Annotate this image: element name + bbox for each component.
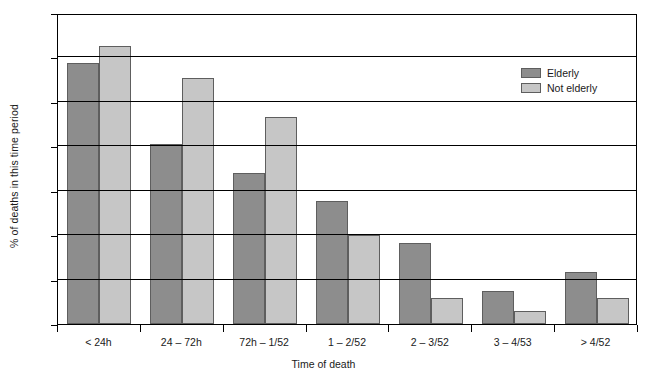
chart-legend: Elderly Not elderly [521,67,597,97]
y-tick-mark [51,103,57,104]
x-axis-title: Time of death [0,358,647,370]
x-tick-mark [471,325,472,332]
x-tick-label: > 4/52 [536,336,647,348]
x-tick-mark [554,325,555,332]
x-tick-mark [140,325,141,332]
x-tick-mark [57,325,58,332]
legend-swatch-icon [521,83,541,93]
x-tick-mark [388,325,389,332]
y-tick-mark [51,236,57,237]
legend-item-elderly: Elderly [521,67,597,79]
y-tick-mark [51,58,57,59]
y-tick-mark [51,14,57,15]
legend-label: Elderly [547,67,579,79]
y-tick-mark [51,192,57,193]
x-tick-mark [223,325,224,332]
legend-item-not-elderly: Not elderly [521,82,597,94]
y-tick-mark [51,147,57,148]
y-axis: 0%5%10%15%20%25%30%35% [57,14,637,325]
x-tick-mark [306,325,307,332]
y-tick-mark [51,281,57,282]
y-axis-title: % of deaths in this time period [8,76,20,276]
bar-chart: % of deaths in this time period 0%5%10%1… [0,0,647,380]
legend-label: Not elderly [547,82,597,94]
legend-swatch-icon [521,68,541,78]
x-tick-mark [637,325,638,332]
